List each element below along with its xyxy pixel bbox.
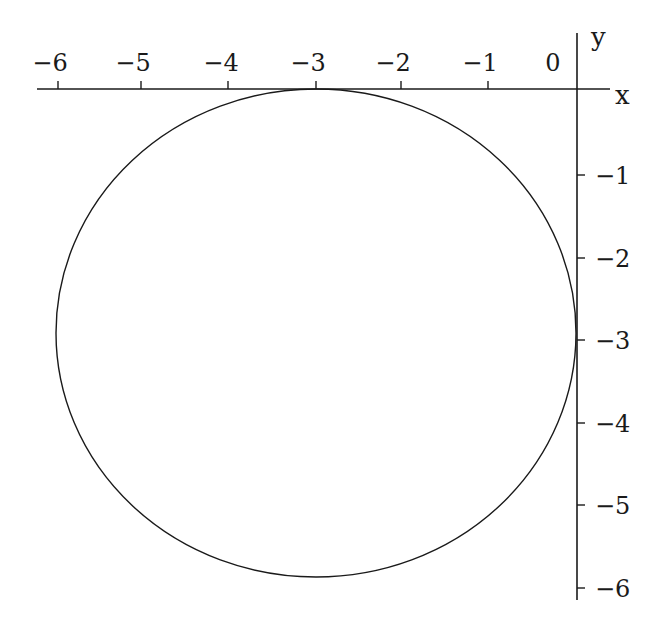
x-tick-label: −4 [203, 49, 238, 77]
x-tick-label: −3 [290, 49, 325, 77]
chart-plot: −6 −5 −4 −3 −2 −1 0 −1 −2 −3 −4 −5 −6 x … [0, 0, 670, 633]
x-ticks [58, 81, 488, 89]
x-tick-label: 0 [545, 49, 560, 77]
y-tick-label: −4 [595, 410, 630, 438]
y-tick-label: −1 [595, 162, 630, 190]
x-axis-label: x [615, 80, 630, 110]
circle-curve [56, 89, 576, 577]
y-tick-label: −5 [595, 492, 630, 520]
x-tick-label: −6 [32, 49, 67, 77]
x-tick-label: −2 [375, 49, 410, 77]
y-axis-label: y [590, 22, 606, 52]
x-tick-label: −5 [115, 49, 150, 77]
y-ticks [577, 175, 585, 588]
y-tick-label: −6 [595, 575, 630, 603]
y-tick-labels: −1 −2 −3 −4 −5 −6 [595, 162, 630, 603]
y-tick-label: −2 [595, 245, 630, 273]
x-tick-labels: −6 −5 −4 −3 −2 −1 0 [32, 49, 560, 77]
y-tick-label: −3 [595, 327, 630, 355]
x-tick-label: −1 [462, 49, 497, 77]
